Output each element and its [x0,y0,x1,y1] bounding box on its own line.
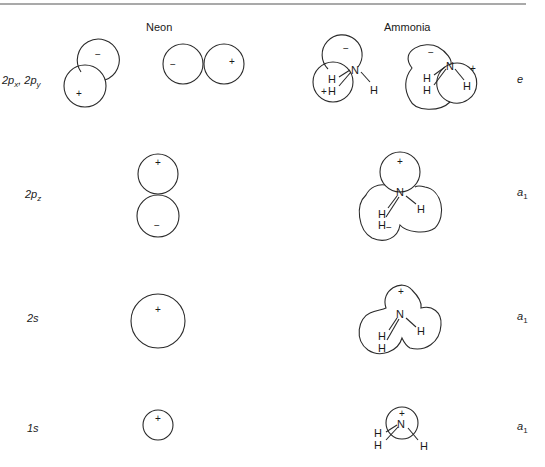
hydrogen-atom: H [328,85,336,97]
hydrogen-atom: H [423,72,431,84]
plus-sign: + [397,156,403,167]
neon-1s-orbital: + [143,410,173,440]
bond [406,196,416,204]
orbital-correlation-diagram: Neon Ammonia 2px, 2py − + − + − N [0,0,545,467]
hydrogen-atom: H [378,330,386,342]
neon-2s-orbital: + [131,294,185,348]
hydrogen-atom: H [423,84,431,96]
minus-sign: − [170,59,176,70]
hydrogen-atom: H [378,219,386,231]
plus-sign: + [229,56,235,67]
orbital-label-2s: 2s [26,312,39,324]
hydrogen-atom: H [374,427,382,439]
bond [386,197,399,217]
neon-2py-orbital: − + [163,44,244,84]
bond [406,318,416,327]
neon-2px-lobe-positive [64,65,106,107]
bond [339,70,350,77]
hydrogen-atom: H [374,439,382,451]
minus-sign: − [428,47,434,58]
ammonia-e-orbital-1: − N H + H H [313,35,378,102]
symmetry-label-a1: a1 [517,420,528,435]
ammonia-e-orbital-2: − + N H H H [406,45,477,110]
plus-sign: + [76,88,82,99]
neon-2s-sphere [131,294,185,348]
orbital-label-2pz: 2pz [24,188,41,203]
minus-sign: − [343,43,349,54]
ammonia-lobe-negative [406,45,477,110]
symmetry-label-e: e [517,73,523,85]
row-2pxy: 2px, 2py − + − + − N H + H H [1,35,523,109]
symmetry-label-a1: a1 [517,310,528,325]
nitrogen-atom: N [351,64,359,76]
hydrogen-atom: H [328,73,336,85]
orbital-label-1s: 1s [27,422,39,434]
bond [339,72,351,86]
ammonia-a1-orbital-1s: + N H H H [374,407,428,452]
plus-sign: + [470,63,476,74]
hydrogen-atom: H [370,84,378,96]
minus-sign: − [95,49,101,60]
hydrogen-atom: H [420,440,428,452]
ammonia-a1-orbital-2s: + N H H H [359,285,441,354]
minus-sign: − [386,222,392,233]
bond [455,69,464,80]
row-1s: 1s + + N H H H a1 [27,407,528,452]
hydrogen-atom: H [417,203,425,215]
plus-sign: + [155,157,161,168]
row-2pz: 2pz + − + N H H − H a1 [24,152,528,240]
neon-2pz-orbital: + − [137,154,179,237]
nitrogen-atom: N [397,418,405,430]
nitrogen-atom: N [446,60,454,72]
hydrogen-atom: H [378,342,386,354]
plus-sign: + [321,86,327,97]
ammonia-a1-orbital-2pz: + N H H − H [359,152,441,240]
hydrogen-atom: H [417,325,425,337]
bond [361,72,370,82]
row-2s: 2s + + N H H H a1 [26,285,528,354]
symmetry-label-a1: a1 [517,186,528,201]
column-header-neon: Neon [146,21,172,33]
neon-2px-orbital: − + [64,39,119,107]
column-header-ammonia: Ammonia [384,21,431,33]
plus-sign: + [155,304,161,315]
neon-2py-lobe-negative [163,44,203,84]
orbital-label-2pxy: 2px, 2py [1,74,42,89]
neon-2py-lobe-positive [204,44,244,84]
hydrogen-atom: H [463,80,471,92]
plus-sign: + [398,286,404,297]
bond [386,425,397,432]
plus-sign: + [155,413,161,424]
minus-sign: − [154,220,160,231]
